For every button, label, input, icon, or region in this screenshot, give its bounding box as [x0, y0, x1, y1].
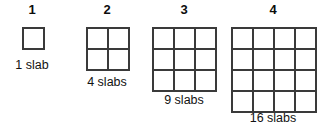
slab-cell — [296, 71, 317, 92]
slab-cell — [296, 29, 317, 50]
slab-cell — [196, 29, 217, 50]
slab-cell — [296, 92, 317, 113]
slab-cell — [275, 50, 296, 71]
step-number-3: 3 — [154, 2, 214, 17]
slab-pattern-diagram: 11 slab24 slabs39 slabs416 slabs — [0, 0, 320, 130]
slab-cell — [109, 29, 130, 50]
slab-count-label-1: 1 slab — [0, 58, 82, 73]
slab-cell — [175, 71, 196, 92]
slab-cell — [88, 50, 109, 71]
slab-cell — [296, 50, 317, 71]
slab-cell — [24, 29, 45, 50]
figure-group-3: 39 slabs — [0, 0, 320, 130]
slab-cell — [254, 71, 275, 92]
slab-cell — [196, 71, 217, 92]
slab-cell — [175, 29, 196, 50]
slab-cell — [233, 71, 254, 92]
slab-cell — [88, 29, 109, 50]
figure-group-4: 416 slabs — [0, 0, 320, 130]
slab-cell — [154, 50, 175, 71]
slab-grid-2 — [86, 27, 130, 71]
slab-cell — [196, 50, 217, 71]
slab-cell — [109, 50, 130, 71]
step-number-1: 1 — [2, 2, 62, 17]
step-number-2: 2 — [77, 2, 137, 17]
slab-count-label-3: 9 slabs — [134, 93, 234, 108]
slab-cell — [275, 71, 296, 92]
slab-cell — [254, 50, 275, 71]
slab-count-label-4: 16 slabs — [223, 111, 320, 126]
slab-cell — [233, 50, 254, 71]
slab-cell — [254, 29, 275, 50]
slab-cell — [275, 29, 296, 50]
slab-grid-4 — [231, 27, 317, 113]
step-number-4: 4 — [243, 2, 303, 17]
slab-cell — [154, 71, 175, 92]
slab-cell — [233, 92, 254, 113]
slab-cell — [233, 29, 254, 50]
figure-group-1: 11 slab — [0, 0, 320, 130]
figure-group-2: 24 slabs — [0, 0, 320, 130]
slab-cell — [175, 50, 196, 71]
slab-count-label-2: 4 slabs — [57, 75, 157, 90]
slab-cell — [254, 92, 275, 113]
slab-cell — [154, 29, 175, 50]
slab-cell — [275, 92, 296, 113]
slab-grid-3 — [152, 27, 217, 92]
slab-grid-1 — [22, 27, 45, 50]
